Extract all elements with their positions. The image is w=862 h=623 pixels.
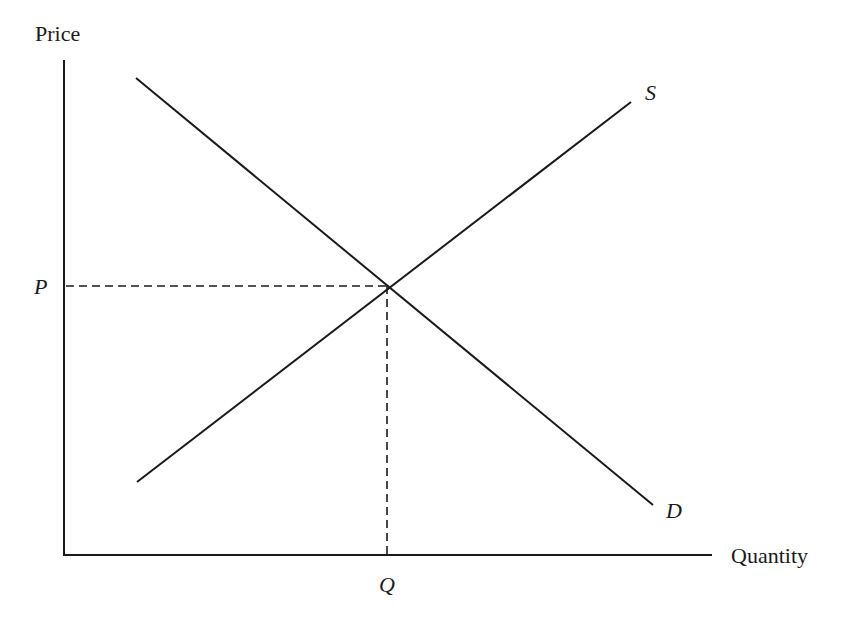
supply-label: S bbox=[645, 80, 656, 105]
supply-demand-diagram: Price Quantity S D P Q bbox=[0, 0, 862, 623]
demand-label: D bbox=[665, 498, 682, 523]
x-axis-label: Quantity bbox=[731, 543, 808, 568]
demand-curve bbox=[136, 78, 653, 505]
y-axis-label: Price bbox=[35, 21, 80, 46]
price-label: P bbox=[33, 274, 47, 299]
quantity-label: Q bbox=[379, 572, 395, 597]
